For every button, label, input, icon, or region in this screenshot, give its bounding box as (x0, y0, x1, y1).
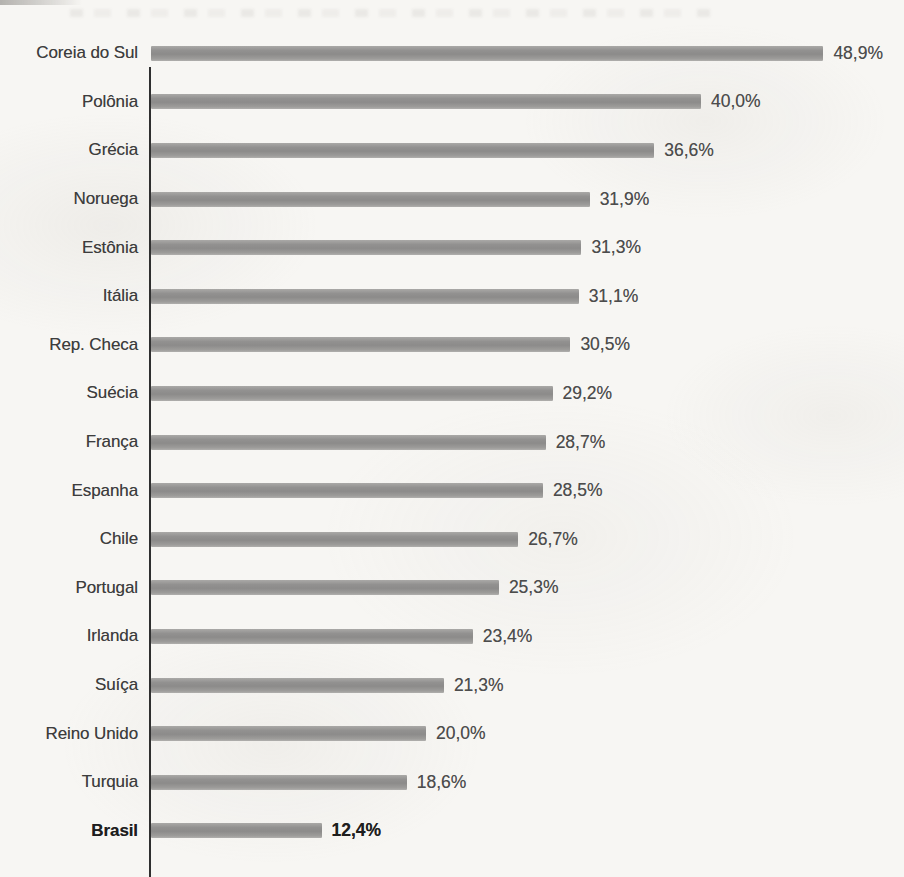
value-label: 48,9% (833, 43, 883, 64)
category-label: Portugal (0, 578, 151, 598)
category-label: Irlanda (0, 626, 151, 646)
chart-row: Espanha 28,5% (0, 466, 904, 515)
bar (151, 726, 426, 741)
chart-row: França 28,7% (0, 418, 904, 467)
bar (151, 435, 546, 450)
chart-row: Grécia 36,6% (0, 126, 904, 175)
value-label: 12,4% (332, 820, 382, 841)
value-label: 20,0% (436, 723, 486, 744)
bar (151, 240, 581, 255)
chart-row: Polônia 40,0% (0, 78, 904, 127)
category-label: Rep. Checa (0, 335, 151, 355)
chart-rows: Coreia do Sul 48,9% Polônia 40,0% Grécia… (0, 29, 904, 855)
bar (151, 678, 444, 693)
chart-row: Irlanda 23,4% (0, 612, 904, 661)
bar (151, 46, 823, 61)
category-label: Grécia (0, 140, 151, 160)
bar (151, 775, 407, 790)
y-axis-line (149, 67, 151, 877)
bar (151, 386, 553, 401)
category-label: Suíça (0, 675, 151, 695)
category-label: Reino Unido (0, 724, 151, 744)
bar (151, 629, 473, 644)
value-label: 31,3% (591, 237, 641, 258)
value-label: 31,1% (589, 286, 639, 307)
value-label: 31,9% (600, 189, 650, 210)
bar (151, 289, 579, 304)
bar (151, 94, 701, 109)
chart-row: Suécia 29,2% (0, 369, 904, 418)
chart-row: Estônia 31,3% (0, 223, 904, 272)
bar (151, 143, 654, 158)
category-label: Coreia do Sul (0, 43, 151, 63)
bar (151, 823, 322, 838)
value-label: 23,4% (483, 626, 533, 647)
chart-row: Reino Unido 20,0% (0, 709, 904, 758)
category-label: Chile (0, 529, 151, 549)
category-label: França (0, 432, 151, 452)
bar (151, 532, 518, 547)
bleed-through-text (70, 9, 710, 17)
category-label: Suécia (0, 383, 151, 403)
category-label: Itália (0, 286, 151, 306)
value-label: 36,6% (664, 140, 714, 161)
value-label: 26,7% (528, 529, 578, 550)
value-label: 28,7% (556, 432, 606, 453)
chart-row: Coreia do Sul 48,9% (0, 29, 904, 78)
bar (151, 483, 543, 498)
bar-chart: Coreia do Sul 48,9% Polônia 40,0% Grécia… (0, 29, 904, 855)
category-label: Brasil (0, 821, 151, 841)
bar (151, 192, 590, 207)
value-label: 28,5% (553, 480, 603, 501)
bar (151, 580, 499, 595)
value-label: 30,5% (580, 334, 630, 355)
chart-row: Turquia 18,6% (0, 758, 904, 807)
category-label: Turquia (0, 772, 151, 792)
chart-row: Suíça 21,3% (0, 661, 904, 710)
chart-row: Portugal 25,3% (0, 564, 904, 613)
chart-row: Rep. Checa 30,5% (0, 321, 904, 370)
value-label: 40,0% (711, 91, 761, 112)
value-label: 25,3% (509, 577, 559, 598)
chart-row: Brasil 12,4% (0, 807, 904, 856)
value-label: 29,2% (563, 383, 613, 404)
chart-row: Chile 26,7% (0, 515, 904, 564)
category-label: Noruega (0, 189, 151, 209)
category-label: Espanha (0, 481, 151, 501)
scan-edge-smudge (0, 0, 82, 5)
chart-row: Noruega 31,9% (0, 175, 904, 224)
category-label: Polônia (0, 92, 151, 112)
bar (151, 337, 570, 352)
chart-row: Itália 31,1% (0, 272, 904, 321)
value-label: 21,3% (454, 675, 504, 696)
value-label: 18,6% (417, 772, 467, 793)
category-label: Estônia (0, 238, 151, 258)
